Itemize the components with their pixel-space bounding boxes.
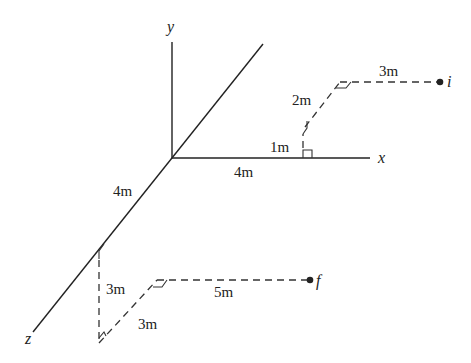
label-initial-y-1m: 1m: [270, 139, 290, 155]
label-final-z-3m: 3m: [138, 316, 158, 332]
final-point-dot: [307, 277, 314, 284]
label-initial-x-3m: 3m: [379, 63, 399, 79]
final-point-label: f: [316, 272, 323, 290]
right-angle-marker-up: [303, 121, 307, 134]
label-final-x-5m: 5m: [214, 284, 234, 300]
label-final-y-3m: 3m: [106, 281, 126, 297]
right-angle-marker-x: [303, 150, 312, 158]
displacement-diagram: y x z i 4m 1m 2m 3m f 4m 3m 3m 5m: [0, 0, 471, 363]
z-axis-label: z: [24, 330, 32, 347]
right-angle-marker-bottom: [99, 332, 106, 338]
y-axis-label: y: [165, 18, 175, 36]
label-initial-x-4m: 4m: [234, 164, 254, 180]
label-final-z-4m: 4m: [113, 183, 133, 199]
x-axis-label: x: [377, 149, 385, 166]
label-initial-z-2m: 2m: [292, 92, 312, 108]
initial-point-dot: [437, 79, 444, 86]
initial-point-label: i: [447, 73, 451, 90]
right-angle-marker-corner-f: [153, 280, 167, 287]
